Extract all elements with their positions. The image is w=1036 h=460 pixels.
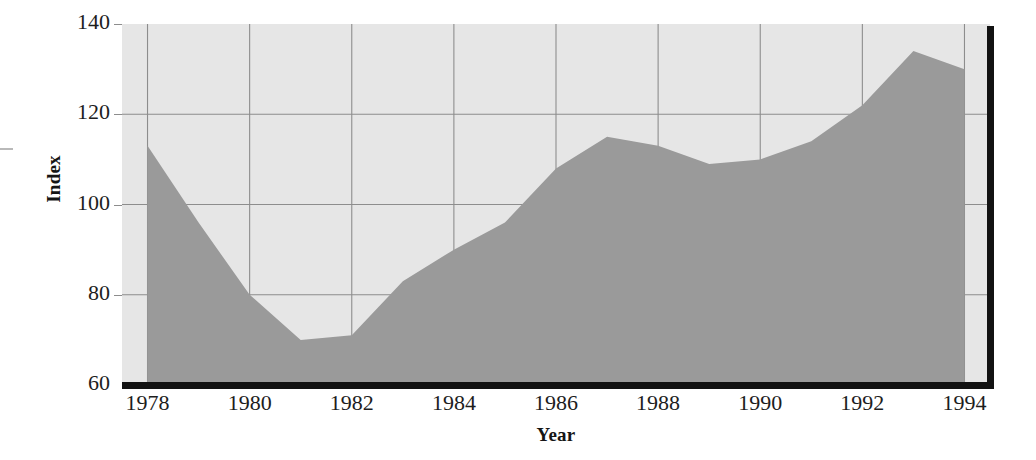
x-axis-line (122, 382, 994, 389)
y-tick-label: 60 (36, 370, 110, 396)
plot-area (122, 24, 990, 385)
x-tick-label: 1994 (924, 390, 1004, 416)
right-axis-line (987, 26, 994, 386)
x-tick-label: 1978 (108, 390, 188, 416)
x-tick-label: 1990 (720, 390, 800, 416)
y-tick-label: 140 (36, 9, 110, 35)
x-tick-label: 1992 (822, 390, 902, 416)
area-plot-svg (122, 24, 990, 385)
x-tick-label: 1986 (516, 390, 596, 416)
area-chart-figure: Index Year 6080100120140 197819801982198… (0, 0, 1036, 460)
x-tick-label: 1988 (618, 390, 698, 416)
y-tick-label: 80 (36, 280, 110, 306)
y-axis-title: Index (43, 119, 65, 239)
x-axis-title: Year (122, 424, 990, 446)
y-tick-label: 100 (36, 190, 110, 216)
page-edge-mark (0, 148, 13, 150)
x-tick-label: 1984 (414, 390, 494, 416)
x-tick-label: 1982 (312, 390, 392, 416)
x-tick-label: 1980 (210, 390, 290, 416)
y-tick-label: 120 (36, 99, 110, 125)
